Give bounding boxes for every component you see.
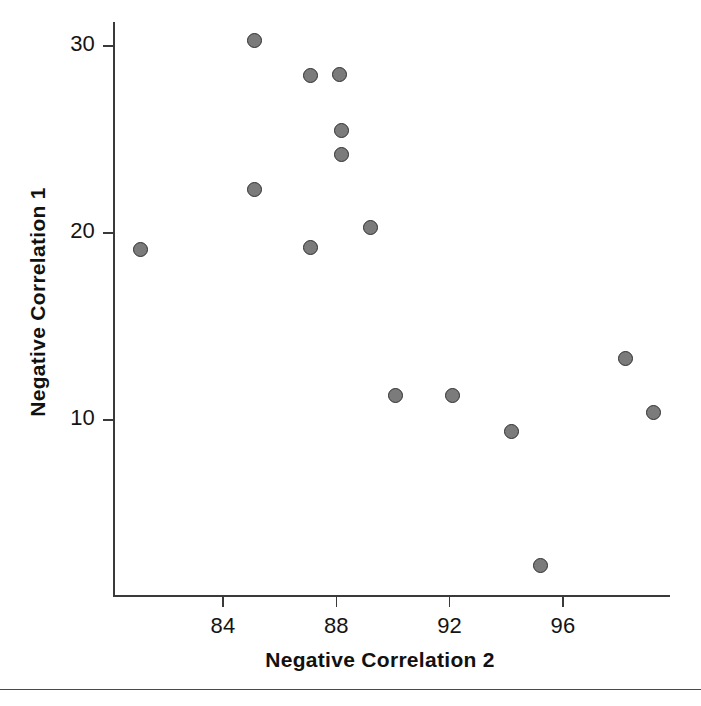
data-point bbox=[445, 388, 460, 403]
x-tick-mark bbox=[222, 596, 224, 607]
y-tick-mark bbox=[103, 419, 114, 421]
data-point bbox=[646, 405, 661, 420]
data-point bbox=[303, 68, 318, 83]
data-point bbox=[504, 424, 519, 439]
data-point bbox=[133, 242, 148, 257]
data-point bbox=[618, 351, 633, 366]
y-axis-title: Negative Correlation 1 bbox=[26, 92, 50, 512]
data-point bbox=[247, 182, 262, 197]
y-axis-line bbox=[113, 22, 115, 596]
y-tick-label: 30 bbox=[35, 31, 95, 57]
plot-area: 102030 84889296 bbox=[0, 0, 701, 706]
x-tick-label: 84 bbox=[188, 613, 258, 639]
data-point bbox=[334, 147, 349, 162]
y-tick-mark bbox=[103, 45, 114, 47]
x-axis-title: Negative Correlation 2 bbox=[0, 648, 701, 672]
x-tick-label: 92 bbox=[415, 613, 485, 639]
x-tick-label: 96 bbox=[528, 613, 598, 639]
x-tick-mark bbox=[562, 596, 564, 607]
data-point bbox=[332, 67, 347, 82]
y-tick-mark bbox=[103, 232, 114, 234]
data-point bbox=[247, 33, 262, 48]
x-axis-line bbox=[113, 595, 670, 597]
scatter-plot-figure: 102030 84889296 Negative Correlation 2 N… bbox=[0, 0, 701, 706]
x-tick-mark bbox=[449, 596, 451, 607]
data-point bbox=[388, 388, 403, 403]
data-point bbox=[334, 123, 349, 138]
data-point bbox=[533, 558, 548, 573]
x-tick-label: 88 bbox=[301, 613, 371, 639]
x-tick-mark bbox=[336, 596, 338, 607]
data-point bbox=[303, 240, 318, 255]
data-point bbox=[363, 220, 378, 235]
footer-divider bbox=[0, 689, 701, 690]
